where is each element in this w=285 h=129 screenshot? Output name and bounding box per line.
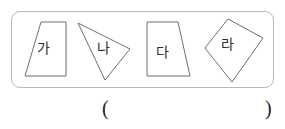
shape-label-ga: 가 (37, 41, 50, 55)
shape-quadrilateral-ra (205, 19, 263, 82)
worksheet-page: 가 나 다 라 ( ) (0, 0, 285, 129)
paren-close: ) (265, 96, 272, 120)
shape-label-da: 다 (156, 45, 169, 59)
answer-blank[interactable] (115, 100, 263, 120)
answer-row: ( ) (11, 96, 274, 125)
shape-label-ra: 라 (221, 37, 234, 51)
shape-label-na: 나 (97, 41, 110, 55)
paren-open: ( (102, 96, 109, 120)
